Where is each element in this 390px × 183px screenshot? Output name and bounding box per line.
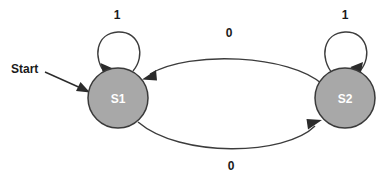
s2-to-s1-arrow-head — [142, 70, 157, 81]
fsm-canvas: S1 S2 Start 1 1 0 0 — [0, 0, 390, 183]
start-arrow-head — [76, 82, 90, 93]
s2-self-loop-label: 1 — [342, 8, 349, 22]
state-node-s2[interactable]: S2 — [315, 68, 375, 128]
s1-to-s2-label: 0 — [228, 159, 235, 173]
state-s2-label: S2 — [338, 92, 353, 106]
s1-self-loop-label: 1 — [114, 8, 121, 22]
start-arrow-line — [45, 72, 83, 89]
state-machine-diagram: S1 S2 Start 1 1 0 0 — [0, 0, 390, 183]
state-node-s1[interactable]: S1 — [88, 68, 148, 128]
start-label: Start — [11, 62, 38, 76]
s2-to-s1-edge — [142, 59, 322, 84]
s1-to-s2-arrow-head — [307, 119, 323, 130]
state-s1-label: S1 — [111, 92, 126, 106]
s2-to-s1-label: 0 — [226, 26, 233, 40]
start-arrow — [45, 72, 90, 93]
s1-to-s2-edge — [138, 119, 322, 149]
s2-to-s1-path — [150, 59, 322, 84]
s1-to-s2-path — [138, 122, 315, 149]
